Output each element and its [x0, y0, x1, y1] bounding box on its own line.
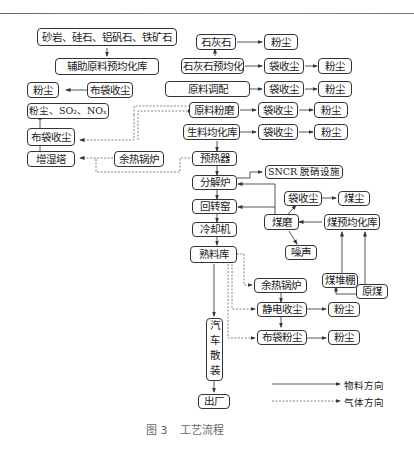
legend-gas-flow: 气体方向 — [344, 395, 384, 409]
node-truck-bulk: 汽车散装 — [206, 318, 223, 381]
node-raw-stones: 砂岩、硅石、铝矾石、铁矿石 — [37, 28, 177, 46]
node-esp-dust: 粉尘 — [328, 302, 360, 317]
node-dust-4: 粉尘 — [314, 124, 348, 140]
node-coal-mill: 煤磨 — [264, 214, 299, 230]
node-rotary-kiln: 回转窑 — [192, 199, 237, 214]
node-noise: 噪声 — [285, 245, 317, 260]
node-bag-dust-collector: 布袋粉尘 — [257, 330, 307, 345]
node-esp: 静电收尘 — [257, 302, 307, 317]
node-dust-left-1: 粉尘 — [27, 82, 59, 98]
node-waste-heat-boiler-bottom: 余热锅炉 — [254, 278, 307, 293]
node-bag-1: 袋收尘 — [264, 58, 304, 74]
node-bag-2: 袋收尘 — [264, 81, 304, 97]
node-limestone: 石灰石 — [196, 34, 236, 50]
node-coal-prehomog: 煤预均化库 — [324, 214, 380, 230]
node-bag-dust: 粉尘 — [328, 330, 360, 345]
node-dust-sox-nox: 粉尘、SO₂、NOₓ — [27, 103, 109, 119]
node-clinker-store: 熟料库 — [190, 246, 237, 263]
node-coal-bag: 袋收尘 — [284, 191, 322, 206]
node-bag-collector-left-1: 布袋收尘 — [87, 82, 133, 98]
node-cooler: 冷却机 — [192, 222, 237, 237]
node-raw-mill: 原料粉磨 — [189, 102, 239, 118]
node-coal-shed: 煤堆棚 — [322, 273, 358, 288]
node-raw-blending: 原料调配 — [165, 81, 250, 97]
node-humidifier-tower: 增湿塔 — [27, 151, 75, 167]
node-raw-coal: 原煤 — [356, 284, 388, 299]
node-waste-heat-boiler-top: 余热锅炉 — [114, 151, 164, 167]
node-dust-3: 粉尘 — [314, 102, 348, 118]
node-bag-collector-left-2: 布袋收尘 — [27, 128, 75, 146]
node-dust-1: 粉尘 — [318, 58, 352, 74]
node-raw-meal-homog: 生料均化库 — [183, 124, 240, 140]
caption-title: 工艺流程 — [180, 424, 224, 437]
caption-number: 图 3 — [146, 424, 168, 437]
node-exit: 出厂 — [198, 394, 230, 409]
node-aux-prehomog: 辅助原料预均化库 — [55, 58, 159, 75]
node-sncr: SNCR 脱硝设施 — [265, 165, 343, 179]
node-coal-dust: 煤尘 — [338, 191, 370, 206]
node-calciner: 分解炉 — [192, 175, 237, 190]
node-limestone-prehomog: 石灰石预均化 — [181, 58, 244, 74]
figure-caption: 图 3工艺流程 — [146, 421, 236, 437]
node-preheater: 预热器 — [192, 151, 237, 166]
legend-material-flow: 物料方向 — [344, 378, 384, 392]
node-bag-4: 袋收尘 — [258, 124, 298, 140]
node-dust-2: 粉尘 — [318, 81, 352, 97]
node-limestone-dust: 粉尘 — [264, 34, 298, 50]
node-bag-3: 袋收尘 — [258, 102, 298, 118]
